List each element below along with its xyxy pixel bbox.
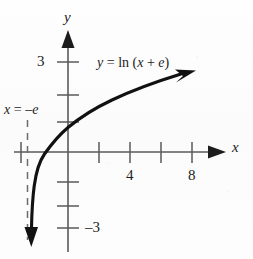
y-tick-label-minus-3: –3 (85, 220, 100, 235)
y-tick-label-3: 3 (37, 54, 45, 69)
y-axis-label: y (64, 10, 71, 25)
x-tick-label-8: 8 (188, 168, 196, 183)
figure-container: y x 3 –3 4 8 y = ln (x + e) x = –e (0, 0, 253, 259)
asymptote-equals: = (10, 102, 25, 117)
equation-plus: + (143, 55, 158, 70)
asymptote-label: x = –e (4, 103, 38, 117)
equation-equals: = (103, 55, 118, 70)
x-tick-label-4: 4 (126, 168, 134, 183)
log-curve (32, 74, 182, 228)
x-axis-label: x (232, 140, 239, 155)
curve-equation-label: y = ln (x + e) (97, 56, 169, 70)
coordinate-plot (0, 0, 253, 259)
y-axis-arrowhead (62, 30, 75, 48)
equation-function: ln (118, 55, 129, 70)
curve-arrowhead-bottom (25, 227, 39, 247)
asymptote-value-text: –e (25, 102, 38, 117)
equation-paren-close: ) (165, 55, 170, 70)
x-axis-arrowhead (208, 146, 226, 159)
